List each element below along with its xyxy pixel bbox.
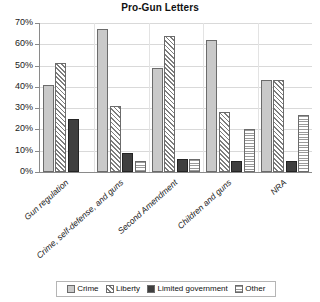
y-tick-mark bbox=[35, 172, 39, 173]
legend-item[interactable]: Liberty bbox=[106, 285, 141, 293]
bar bbox=[244, 129, 255, 172]
y-tick-mark bbox=[35, 87, 39, 88]
bar bbox=[189, 159, 200, 172]
chart-title: Pro-Gun Letters bbox=[0, 2, 320, 13]
y-tick-label: 30% bbox=[0, 103, 33, 112]
legend-swatch bbox=[235, 285, 243, 293]
x-axis-label: Crime, self-defense, and guns bbox=[0, 177, 125, 291]
legend-swatch bbox=[106, 285, 114, 293]
bar-group bbox=[40, 23, 94, 172]
bar bbox=[219, 112, 230, 172]
y-tick-label: 50% bbox=[0, 61, 33, 70]
y-tick-label: 60% bbox=[0, 39, 33, 48]
bar bbox=[97, 29, 108, 172]
bar-group bbox=[94, 23, 148, 172]
bar bbox=[68, 119, 79, 172]
y-tick-label: 20% bbox=[0, 124, 33, 133]
bar bbox=[206, 40, 217, 172]
y-tick-mark bbox=[35, 23, 39, 24]
y-tick-label: 10% bbox=[0, 146, 33, 155]
chart-legend: CrimeLibertyLimited governmentOther bbox=[56, 281, 276, 297]
y-tick-label: 40% bbox=[0, 82, 33, 91]
bar bbox=[231, 161, 242, 172]
bar bbox=[273, 80, 284, 172]
legend-label: Other bbox=[245, 285, 265, 293]
legend-swatch bbox=[147, 285, 155, 293]
legend-item[interactable]: Limited government bbox=[147, 285, 228, 293]
legend-item[interactable]: Crime bbox=[67, 285, 99, 293]
y-tick-mark bbox=[35, 66, 39, 67]
bar bbox=[152, 68, 163, 172]
bar bbox=[122, 153, 133, 172]
bar bbox=[298, 115, 309, 172]
bar bbox=[164, 36, 175, 172]
bar bbox=[286, 161, 297, 172]
bar bbox=[55, 63, 66, 172]
x-axis-label: NRA bbox=[163, 177, 289, 291]
bar bbox=[177, 159, 188, 172]
legend-label: Liberty bbox=[116, 285, 140, 293]
bar-group bbox=[258, 23, 312, 172]
x-axis-label: Children and guns bbox=[108, 177, 234, 291]
bar bbox=[135, 161, 146, 172]
bar bbox=[110, 106, 121, 172]
bar bbox=[43, 85, 54, 172]
plot-area bbox=[40, 23, 312, 172]
y-tick-label: 0% bbox=[0, 167, 33, 176]
legend-label: Limited government bbox=[158, 285, 228, 293]
bar-group bbox=[203, 23, 257, 172]
y-tick-mark bbox=[35, 129, 39, 130]
y-tick-mark bbox=[35, 151, 39, 152]
legend-label: Crime bbox=[77, 285, 98, 293]
x-axis-line bbox=[39, 172, 312, 173]
y-tick-mark bbox=[35, 108, 39, 109]
legend-swatch bbox=[67, 285, 75, 293]
bar-group bbox=[149, 23, 203, 172]
y-tick-mark bbox=[35, 44, 39, 45]
y-tick-label: 70% bbox=[0, 18, 33, 27]
bar bbox=[261, 80, 272, 172]
legend-item[interactable]: Other bbox=[235, 285, 266, 293]
